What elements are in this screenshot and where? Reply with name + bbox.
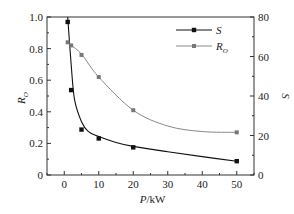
y-left-axis-label: RO [15,92,30,105]
y-left-tick-label: 0.4 [29,106,43,118]
y-left-tick-label: 0.8 [29,43,43,55]
y-right-axis-label: S [280,93,292,99]
s-series-marker [69,88,73,92]
axes-frame [47,17,254,175]
y-right-tick-label: 40 [258,90,270,102]
ro-series-marker [131,108,135,112]
ro-series-marker [80,53,84,57]
y-right-tick-label: 80 [258,11,270,23]
ro-series-marker [97,75,101,79]
y-right-tick-label: 60 [258,51,270,63]
ro-series-line [71,45,237,132]
ro-series-marker [66,40,70,44]
legend-ro-marker [192,44,196,48]
x-tick-label: 40 [197,178,209,190]
x-tick-label: 0 [62,178,68,190]
plot-area: 0102030405000.20.40.60.81.0020406080P/kW… [15,11,292,205]
x-tick-label: 30 [162,178,174,190]
s-series-marker [235,159,239,163]
legend-s-marker [192,28,196,32]
y-left-tick-label: 1.0 [29,11,43,23]
legend-ro-label: RO [215,40,228,55]
y-right-tick-label: 0 [258,169,264,181]
s-series-line [68,17,237,161]
s-series-marker [97,136,101,140]
s-series-marker [131,145,135,149]
s-series-marker [66,20,70,24]
s-series-marker [79,127,83,131]
y-right-tick-label: 20 [258,130,270,142]
x-tick-label: 20 [128,178,140,190]
x-axis-label: P/kW [139,193,166,205]
x-tick-label: 10 [93,178,105,190]
x-tick-label: 50 [231,178,243,190]
ro-series-marker [235,130,239,134]
y-left-tick-label: 0.6 [29,74,43,86]
legend-s-label: S [216,24,222,36]
ro-series-marker [69,43,73,47]
y-left-tick-label: 0.2 [29,137,43,149]
chart: 0102030405000.20.40.60.81.0020406080P/kW… [0,0,294,214]
y-left-tick-label: 0 [38,169,44,181]
